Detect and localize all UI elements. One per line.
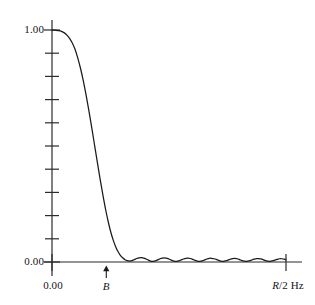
x-axis-label-b: B — [97, 280, 115, 292]
y-axis-label-bottom: 0.00 — [8, 255, 44, 267]
x-axis-label-right-units: /2 Hz — [279, 279, 304, 291]
spectrum-plot — [0, 0, 315, 305]
x-axis-label-origin: 0.00 — [36, 279, 70, 291]
figure-container: 1.00 0.00 0.00 B R/2 Hz — [0, 0, 315, 305]
x-axis-label-right: R/2 Hz — [262, 279, 314, 291]
y-axis-label-top: 1.00 — [8, 23, 44, 35]
up-arrow-icon — [103, 266, 109, 279]
response-curve — [52, 30, 286, 261]
